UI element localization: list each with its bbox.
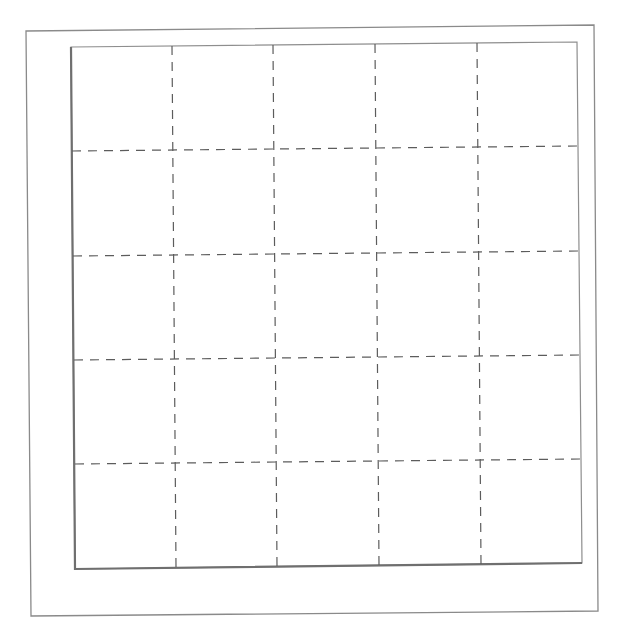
inner-box-left-bottom-edge	[71, 47, 582, 569]
horizontal-grid-line-4	[75, 459, 581, 464]
inner-box	[71, 42, 582, 569]
horizontal-grid-line-1	[72, 146, 578, 151]
vertical-grid-lines	[172, 43, 481, 567]
grid-diagram	[0, 0, 621, 639]
horizontal-grid-lines	[72, 146, 581, 464]
vertical-grid-line-2	[273, 45, 277, 566]
vertical-grid-line-1	[172, 46, 176, 567]
horizontal-grid-line-3	[74, 355, 580, 360]
outer-frame	[26, 25, 598, 616]
horizontal-grid-line-2	[73, 251, 579, 256]
vertical-grid-line-3	[375, 44, 379, 565]
vertical-grid-line-4	[477, 43, 481, 564]
